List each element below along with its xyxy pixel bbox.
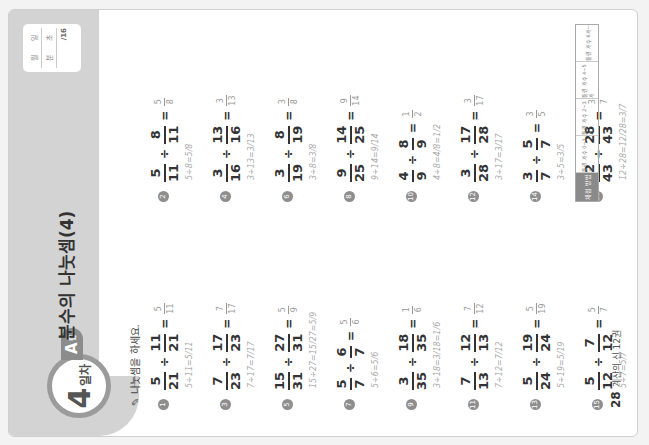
day-number: 4 (62, 388, 97, 409)
divisor-fraction: 1924 (521, 334, 553, 352)
divide-sign: ÷ (220, 149, 234, 159)
day-label-score: 일 (29, 35, 39, 41)
equation: 37 ÷ 57 = 35 (521, 110, 553, 184)
handwritten-work: 4÷8=4/8=1/2 (433, 124, 442, 180)
divide-sign: ÷ (158, 149, 172, 159)
answer-fraction: 56 (340, 318, 361, 326)
handwritten-work: 3÷17=3/17 (495, 133, 504, 180)
divide-sign: ÷ (530, 357, 544, 367)
divisor-fraction: 1425 (335, 126, 367, 144)
answer-fraction: 317 (464, 96, 485, 106)
divisor-fraction: 89 (397, 138, 429, 150)
sheet: 4 일차 A형 분수의 나눗셈(4) 월일 분초 /16 ✎나눗셈을 하세요. … (8, 9, 638, 437)
handwritten-work: 9÷14=9/14 (371, 133, 380, 180)
handwritten-work: 5÷6=5/6 (371, 352, 380, 388)
divide-sign: ÷ (344, 149, 358, 159)
answer-fraction: 717 (216, 304, 237, 314)
answer-fraction: 58 (154, 98, 175, 106)
page-number: 28 (609, 391, 623, 408)
answer-fraction: 712 (464, 304, 485, 314)
dividend-fraction: 328 (459, 164, 491, 182)
dividend-fraction: 316 (211, 164, 243, 182)
problem-number: 1 (158, 399, 169, 410)
worksheet-scan: 4 일차 A형 분수의 나눗셈(4) 월일 분초 /16 ✎나눗셈을 하세요. … (0, 0, 649, 445)
grading-head: 채점 방법 (576, 173, 598, 201)
equation: 57 ÷ 67 = 56 (335, 318, 367, 392)
handwritten-work: 15÷27=15/27=5/9 (309, 312, 318, 388)
day-badge: 4 일차 (47, 354, 111, 418)
dividend-fraction: 925 (335, 164, 367, 182)
level-letter: A (63, 342, 81, 354)
problem-number: 10 (406, 191, 417, 202)
equation: 723 ÷ 1723 = 717 (211, 304, 243, 393)
problem-number: 11 (468, 399, 479, 410)
problem-number: 6 (282, 191, 293, 202)
equals-sign: = (344, 111, 358, 121)
divide-sign: ÷ (468, 149, 482, 159)
book-title: 계산의 신 12권 (612, 330, 622, 387)
divide-sign: ÷ (282, 357, 296, 367)
dividend-fraction: 1531 (273, 372, 305, 390)
answer-fraction: 313 (216, 96, 237, 106)
equals-sign: = (158, 319, 172, 329)
divisor-fraction: 819 (273, 126, 305, 144)
problem-number: 13 (530, 399, 541, 410)
answer-fraction: 35 (526, 110, 547, 118)
handwritten-work: 3÷8=3/8 (309, 144, 318, 180)
footer: 28계산의 신 12권 (609, 330, 623, 408)
grading-info-box: 채점 방법 틀린 개수 0~1개 틀린 개수 2~3개 틀린 개수 4~5개 틀… (575, 24, 599, 202)
grading-cell: 틀린 개수 6개~ (576, 25, 598, 62)
handwritten-work: 5÷11=5/11 (185, 341, 194, 388)
pencil-icon: ✎ (130, 398, 141, 406)
grading-cell: 틀린 개수 0~1개 (576, 136, 598, 173)
dividend-fraction: 723 (211, 372, 243, 390)
day-label: 일차 (76, 364, 93, 386)
equals-sign: = (468, 111, 482, 121)
problem-number: 8 (344, 191, 355, 202)
dividend-fraction: 335 (397, 372, 429, 390)
problem-number: 4 (220, 191, 231, 202)
equation: 316 ÷ 1316 = 313 (211, 96, 243, 185)
equals-sign: = (282, 319, 296, 329)
score-box: 월일 분초 /16 (23, 24, 81, 72)
second-label: 초 (44, 35, 54, 41)
equation: 524 ÷ 1924 = 519 (521, 304, 553, 393)
answer-fraction: 38 (278, 98, 299, 106)
equals-sign: = (592, 319, 606, 329)
handwritten-work: 7÷12=7/12 (495, 341, 504, 388)
problem-number: 5 (282, 399, 293, 410)
equals-sign: = (530, 123, 544, 133)
answer-fraction: 511 (154, 304, 175, 314)
equals-sign: = (530, 319, 544, 329)
grading-cell: 틀린 개수 2~3개 (576, 99, 598, 136)
divisor-fraction: 57 (521, 138, 553, 150)
divide-sign: ÷ (592, 357, 606, 367)
minute-label: 분 (44, 55, 54, 61)
equals-sign: = (406, 123, 420, 133)
equals-sign: = (220, 319, 234, 329)
equation: 1531 ÷ 2731 = 59 (273, 306, 305, 392)
handwritten-work: 3÷18=3/18=1/6 (433, 322, 442, 388)
equation: 319 ÷ 819 = 38 (273, 98, 305, 184)
problem-number: 7 (344, 399, 355, 410)
dividend-fraction: 57 (335, 378, 367, 390)
divisor-fraction: 67 (335, 346, 367, 358)
divisor-fraction: 811 (149, 126, 181, 144)
equation: 328 ÷ 1728 = 317 (459, 96, 491, 185)
problem-number: 9 (406, 399, 417, 410)
worksheet-page: 4 일차 A형 분수의 나눗셈(4) 월일 분초 /16 ✎나눗셈을 하세요. … (0, 0, 649, 445)
problem-number: 15 (592, 399, 603, 410)
score-total: /16 (60, 28, 68, 40)
grading-cell: 틀린 개수 4~5개 (576, 62, 598, 99)
dividend-fraction: 521 (149, 372, 181, 390)
divide-sign: ÷ (282, 149, 296, 159)
handwritten-work: 12÷28=12/28=3/7 (619, 104, 628, 180)
equals-sign: = (158, 111, 172, 121)
dividend-fraction: 319 (273, 164, 305, 182)
problem-number: 2 (158, 191, 169, 202)
equation: 713 ÷ 1213 = 712 (459, 304, 491, 393)
equals-sign: = (282, 111, 296, 121)
divide-sign: ÷ (344, 363, 358, 373)
equation: 511 ÷ 811 = 58 (149, 98, 181, 184)
divide-sign: ÷ (158, 357, 172, 367)
